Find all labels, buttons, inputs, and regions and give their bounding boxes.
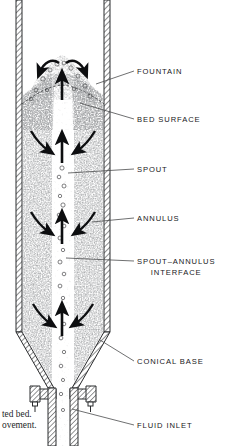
label-fountain: FOUNTAIN (137, 67, 182, 77)
label-spout: SPOUT (137, 165, 168, 175)
caption-line-1: ted bed. (2, 409, 32, 419)
figure-caption-fragment: ted bed. ovement. (2, 409, 37, 430)
spouted-bed-drawing (0, 0, 225, 446)
label-conical-base: CONICAL BASE (137, 357, 204, 367)
vessel-wall-right (104, 0, 110, 332)
vessel-wall-left (16, 0, 22, 332)
label-annulus: ANNULUS (137, 214, 180, 224)
label-spout-annulus-line1: SPOUT–ANNULUS (137, 257, 215, 266)
spouted-bed-figure: FOUNTAIN BED SURFACE SPOUT ANNULUS SPOUT… (0, 0, 225, 446)
label-spout-annulus-interface: SPOUT–ANNULUS INTERFACE (137, 257, 215, 278)
label-spout-annulus-line2: INTERFACE (137, 268, 215, 279)
label-bed-surface: BED SURFACE (137, 115, 201, 125)
label-fluid-inlet: FLUID INLET (137, 421, 192, 431)
caption-line-2: ovement. (2, 420, 37, 430)
